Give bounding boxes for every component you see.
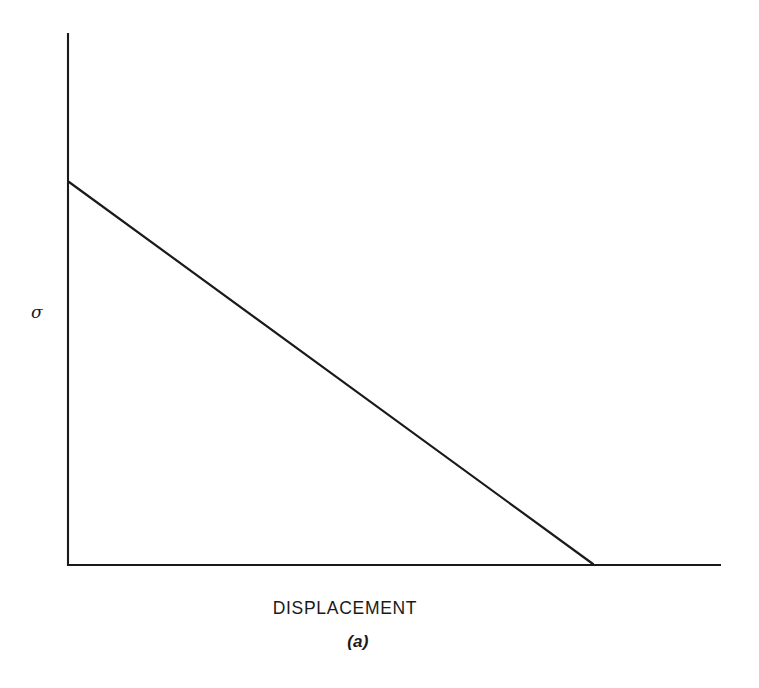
softening-curve-line (69, 182, 593, 564)
figure-container: σ DISPLACEMENT (a) (0, 0, 759, 688)
plot-area (0, 0, 759, 688)
